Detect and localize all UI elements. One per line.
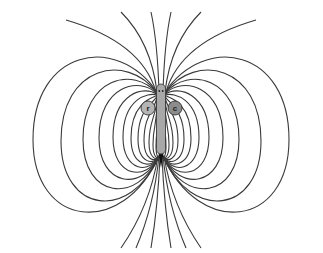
organ-r: r: [141, 101, 155, 115]
left-loop-line: [33, 57, 159, 212]
fish-body: [157, 84, 166, 154]
organ-c-label: c: [173, 104, 178, 113]
right-loop-line: [163, 57, 289, 212]
electric-field-diagram: r c: [0, 0, 323, 253]
organ-r-label: r: [146, 104, 149, 113]
organ-c: c: [168, 101, 182, 115]
open-line-top: [66, 20, 156, 92]
fish-eye-left: [158, 90, 160, 92]
fish-eye-right: [162, 90, 164, 92]
open-line-top: [166, 20, 256, 92]
